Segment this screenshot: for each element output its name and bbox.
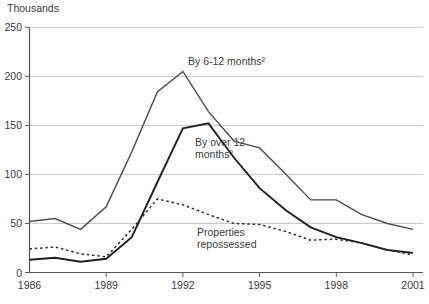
y-tick-label: 250 <box>1 21 22 33</box>
x-tick-label: 1995 <box>243 279 277 291</box>
mortgage-arrears-chart: Thousands By 6-12 months² By over 12 mon… <box>0 0 429 304</box>
series-label-properties-repossessed: Properties repossessed <box>197 227 257 250</box>
x-tick-label: 1989 <box>89 279 123 291</box>
y-tick-label: 50 <box>1 217 22 229</box>
x-tick-label: 1992 <box>166 279 200 291</box>
series-label-over-12-months: By over 12 months² <box>195 137 245 160</box>
x-tick-label: 1998 <box>319 279 353 291</box>
y-tick-label: 0 <box>1 267 22 279</box>
series-label-6-12-months: By 6-12 months² <box>188 56 265 68</box>
y-tick-label: 200 <box>1 70 22 82</box>
y-axis-unit-label: Thousands <box>7 2 59 14</box>
x-tick-label: 2001 <box>396 279 429 291</box>
y-tick-label: 150 <box>1 119 22 131</box>
x-tick-label: 1986 <box>13 279 47 291</box>
y-tick-label: 100 <box>1 168 22 180</box>
